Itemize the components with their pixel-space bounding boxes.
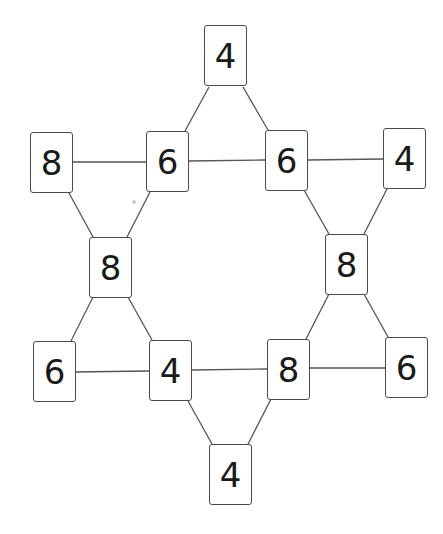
card-mid-left: 8: [89, 237, 132, 298]
edge-upper-far-left-mid-left: [69, 193, 93, 237]
card-lower-far-left: 6: [33, 341, 76, 402]
edge-mid-right-lower-far-right: [364, 294, 388, 337]
edge-lower-far-left-lower-left: [74, 371, 149, 372]
card-top: 4: [204, 25, 247, 86]
card-lower-left: 4: [149, 340, 192, 401]
card-upper-far-right: 4: [383, 128, 426, 189]
card-mid-right: 8: [325, 234, 368, 295]
card-upper-left: 6: [146, 131, 189, 192]
edge-upper-left-upper-right: [189, 160, 265, 161]
edge-lower-left-lower-right: [192, 369, 267, 370]
edge-upper-left-mid-left: [127, 192, 150, 237]
card-bottom: 4: [209, 444, 252, 505]
card-upper-right: 6: [265, 130, 308, 191]
edge-upper-far-right-mid-right: [364, 189, 387, 234]
edge-top-upper-left: [185, 87, 209, 131]
card-upper-far-left: 8: [30, 132, 73, 193]
edge-mid-right-lower-right: [306, 294, 329, 339]
edge-lower-left-bottom: [188, 401, 212, 444]
edge-top-upper-right: [243, 87, 268, 130]
card-lower-right: 8: [267, 339, 310, 400]
edge-upper-right-upper-far-right: [308, 159, 383, 160]
scan-artifact-speck: [132, 200, 136, 204]
edge-mid-left-lower-left: [128, 297, 152, 340]
edge-mid-left-lower-far-left: [71, 297, 93, 341]
edge-lower-right-bottom: [248, 399, 271, 444]
card-lower-far-right: 6: [385, 337, 428, 398]
puzzle-diagram: 4 8 6 6 4 8 8 6 4 8 6 4: [0, 0, 443, 534]
edge-upper-right-mid-right: [304, 190, 329, 234]
